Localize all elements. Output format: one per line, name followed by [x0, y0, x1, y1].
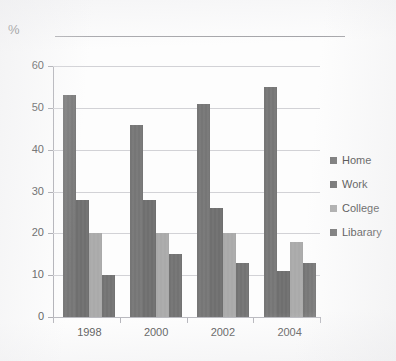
y-axis-unit-label: %	[8, 22, 20, 37]
y-axis-tick	[48, 275, 53, 276]
x-axis-tick	[187, 318, 188, 323]
x-axis-tick-label: 2000	[126, 326, 186, 338]
y-axis-tick	[48, 192, 53, 193]
x-axis-tick	[120, 318, 121, 323]
x-axis-tick	[253, 318, 254, 323]
bar[interactable]	[290, 242, 303, 317]
y-axis-tick-label: 60	[4, 59, 44, 71]
y-axis-tick-label: 10	[4, 268, 44, 280]
x-axis-tick	[320, 318, 321, 323]
legend-item[interactable]: Home	[330, 148, 394, 172]
y-axis-tick	[48, 150, 53, 151]
legend-item-label: College	[342, 202, 379, 214]
x-axis-tick-label: 2002	[193, 326, 253, 338]
y-axis-tick	[48, 108, 53, 109]
x-axis-tick-label: 2004	[260, 326, 320, 338]
legend: HomeWorkCollegeLibarary	[330, 148, 394, 244]
legend-swatch-icon	[330, 181, 337, 188]
y-axis-tick	[48, 233, 53, 234]
legend-item-label: Work	[342, 178, 367, 190]
bar[interactable]	[277, 271, 290, 317]
legend-item[interactable]: College	[330, 196, 394, 220]
bar[interactable]	[264, 87, 277, 317]
y-axis-tick-label: 20	[4, 226, 44, 238]
legend-swatch-icon	[330, 157, 337, 164]
bar-chart-figure: % 6050403020100 1998200020022004 HomeWor…	[0, 0, 396, 361]
y-axis-tick-label: 30	[4, 185, 44, 197]
y-axis-tick	[48, 66, 53, 67]
y-axis-tick-label: 40	[4, 143, 44, 155]
legend-item[interactable]: Work	[330, 172, 394, 196]
legend-item[interactable]: Libarary	[330, 220, 394, 244]
legend-item-label: Libarary	[342, 226, 382, 238]
y-axis-tick	[48, 317, 53, 318]
legend-swatch-icon	[330, 205, 337, 212]
plot-area	[53, 66, 320, 317]
x-axis-tick	[53, 318, 54, 323]
x-axis-tick-label: 1998	[59, 326, 119, 338]
header-rule	[55, 36, 345, 37]
y-axis-tick-labels: 6050403020100	[0, 66, 44, 317]
legend-swatch-icon	[330, 229, 337, 236]
y-axis-tick-label: 0	[4, 310, 44, 322]
bar-group	[53, 66, 320, 317]
y-axis-tick-label: 50	[4, 101, 44, 113]
bar[interactable]	[303, 263, 316, 317]
legend-item-label: Home	[342, 154, 371, 166]
